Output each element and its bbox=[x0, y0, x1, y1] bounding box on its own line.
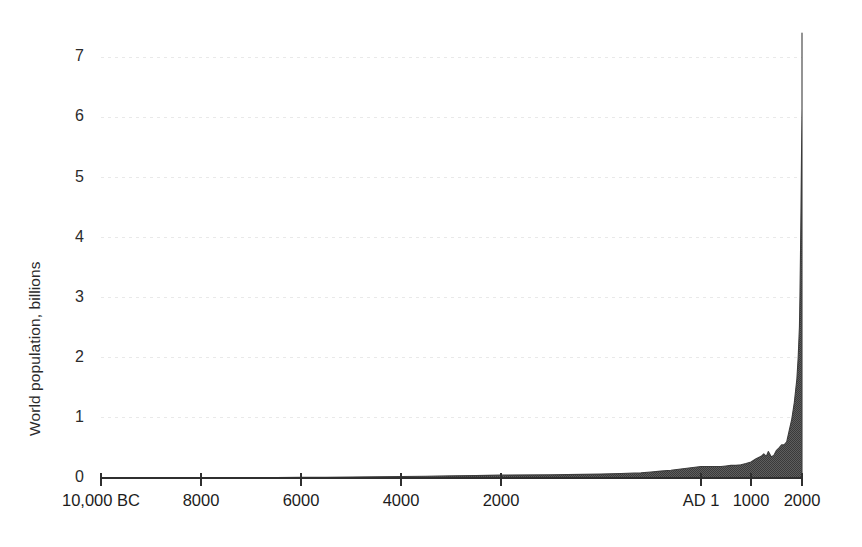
x-tick-label-5: AD 1 bbox=[683, 491, 720, 509]
area-series bbox=[101, 33, 802, 478]
x-tick-label-2: 6000 bbox=[283, 491, 320, 509]
y-axis-label: World population, billions bbox=[26, 261, 43, 436]
world-population-chart: 01234567 10,000 BC8000600040002000AD 110… bbox=[0, 0, 862, 547]
x-tick-label-4: 2000 bbox=[483, 491, 520, 509]
population-area bbox=[101, 33, 802, 478]
y-tick-label-3: 3 bbox=[75, 288, 84, 305]
x-tick-label-7: 2000 bbox=[784, 491, 821, 509]
chart-canvas: 01234567 10,000 BC8000600040002000AD 110… bbox=[0, 0, 862, 547]
y-tick-label-2: 2 bbox=[75, 348, 84, 365]
y-tick-label-4: 4 bbox=[75, 228, 84, 245]
x-tick-label-1: 8000 bbox=[183, 491, 220, 509]
y-tick-label-1: 1 bbox=[75, 408, 84, 425]
y-tick-label-7: 7 bbox=[75, 47, 84, 64]
y-tick-label-0: 0 bbox=[75, 468, 84, 485]
y-tick-label-6: 6 bbox=[75, 107, 84, 124]
y-axis-ticks: 01234567 bbox=[75, 47, 84, 485]
x-tick-label-0: 10,000 BC bbox=[62, 491, 140, 509]
y-tick-label-5: 5 bbox=[75, 168, 84, 185]
x-tick-label-6: 1000 bbox=[733, 491, 770, 509]
x-tick-label-3: 4000 bbox=[383, 491, 420, 509]
gridlines bbox=[101, 57, 802, 418]
